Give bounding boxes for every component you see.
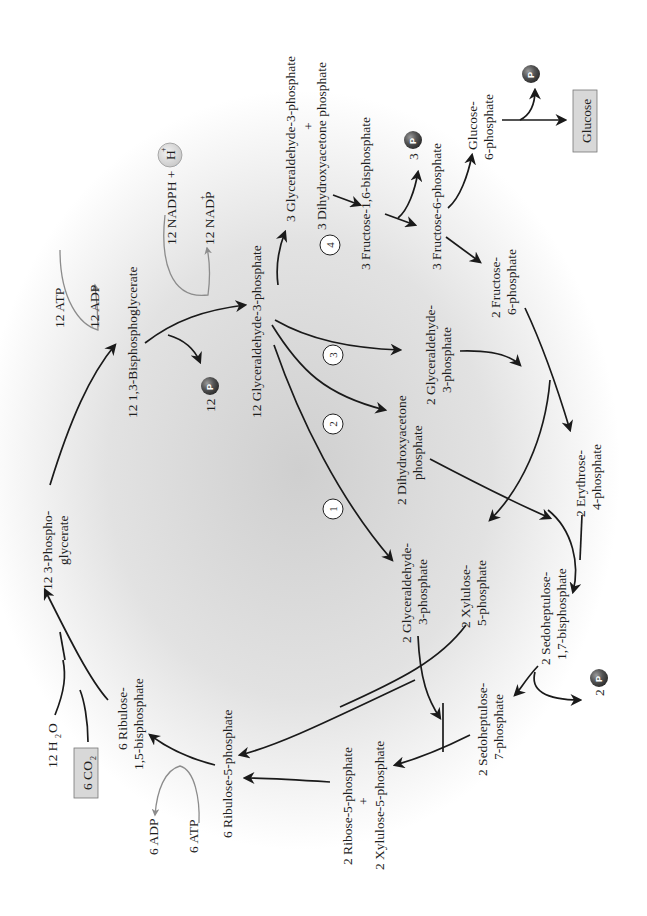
step-3-number: 3	[327, 352, 339, 358]
label-3-g3p: 3 Glyceraldehyde-3-phosphate	[283, 56, 298, 222]
step-2-number: 2	[327, 421, 339, 427]
diagram-canvas: 12 3-Phospho- glycerate 12 1,3-Bisphosph…	[0, 0, 647, 916]
label-12-g3p: 12 Glyceraldehyde-3-phosphate	[249, 245, 264, 418]
label-6-ru5p: 6 Ribulose-5-phosphate	[220, 709, 235, 838]
label-2-dhap-line2: phosphate	[410, 425, 425, 480]
label-6-rubp-line1: 6 Ribulose-	[115, 687, 130, 750]
label-2-pi-count: 2	[592, 689, 607, 696]
label-h2o-o: O	[45, 723, 60, 733]
label-2-e4p-line1: 2 Erythrose-	[573, 449, 588, 517]
label-3-phosphoglycerate-line1: 12 3-Phospho-	[40, 510, 55, 590]
phosphate-icon: P	[205, 384, 215, 390]
label-g6p-line2: 6-phosphate	[481, 94, 496, 160]
label-2-g3p-b-line1: 2 Glyceraldehyde-	[423, 304, 438, 405]
label-h2o-sub: 2	[54, 734, 63, 738]
label-nadp-sup: +	[198, 195, 207, 200]
label-12-atp: 12 ATP	[52, 288, 67, 328]
label-g6p-line1: Glucose-	[465, 101, 480, 150]
label-plus-2: +	[356, 797, 371, 805]
label-3-phosphoglycerate-line2: glycerate	[56, 516, 71, 565]
label-2-g3p-a-line1: 2 Glyceraldehyde-	[399, 542, 414, 643]
label-2-xu5p-b: 2 Xylulose-5-phosphate	[372, 741, 387, 870]
label-2-s7p-line1: 2 Sedoheptulose-	[475, 682, 490, 776]
label-2-g3p-a-line2: 3-phosphate	[415, 559, 430, 625]
label-2-xu5p-line2: 5-phosphate	[474, 560, 489, 626]
label-2-e4p-line2: 4-phosphate	[589, 444, 604, 510]
label-3-dhap: 3 Dihydroxyacetone phosphate	[314, 62, 329, 230]
phosphate-icon: P	[408, 138, 418, 144]
label-3-fbp: 3 Fructose-1,6-bisphosphate	[358, 117, 373, 270]
step-1-number: 1	[327, 506, 339, 512]
label-12-pi-count: 12	[203, 399, 218, 413]
label-2-dhap-line1: 2 Dihydroxyacetone	[394, 395, 409, 505]
calvin-cycle-diagram: 12 3-Phospho- glycerate 12 1,3-Bisphosph…	[0, 0, 647, 916]
label-6-adp: 6 ADP	[146, 819, 161, 855]
label-2-r5p: 2 Ribose-5-phosphate	[340, 747, 355, 865]
label-h-plus-sup: +	[159, 147, 168, 152]
label-2-sbp-line1: 2 Sedoheptulose-	[538, 571, 553, 665]
label-6-atp: 6 ATP	[186, 820, 201, 853]
label-2-f6p-line1: 2 Fructose-	[488, 256, 503, 318]
label-2-sbp-line2: 1,7-bisphosphate	[554, 568, 569, 660]
label-12-h2o: 12 H	[45, 741, 60, 768]
label-nadph: 12 NADPH + 12	[164, 154, 179, 245]
background-glow	[0, 90, 620, 850]
label-6-co2: 6 CO	[80, 761, 95, 790]
phosphate-icon: P	[526, 72, 536, 78]
label-2-s7p-line2: 7-phosphate	[491, 694, 506, 760]
label-3-f6p: 3 Fructose-6-phosphate	[429, 143, 444, 270]
label-bisphosphoglycerate: 12 1,3-Bisphosphoglycerate	[125, 267, 140, 418]
label-2-f6p-line2: 6-phosphate	[504, 249, 519, 315]
label-glucose: Glucose	[579, 99, 594, 143]
label-3-pi-count: 3	[406, 153, 421, 160]
label-co2-sub: 2	[89, 756, 98, 760]
label-12-adp: 12 ADP	[87, 285, 102, 328]
label-2-xu5p-line1: 2 Xylulose-	[458, 564, 473, 628]
label-6-rubp-line2: 1,5-bisphosphate	[131, 678, 146, 770]
label-2-g3p-b-line2: 3-phosphate	[439, 327, 454, 393]
phosphate-icon: P	[594, 676, 604, 682]
step-4-number: 4	[324, 242, 336, 248]
